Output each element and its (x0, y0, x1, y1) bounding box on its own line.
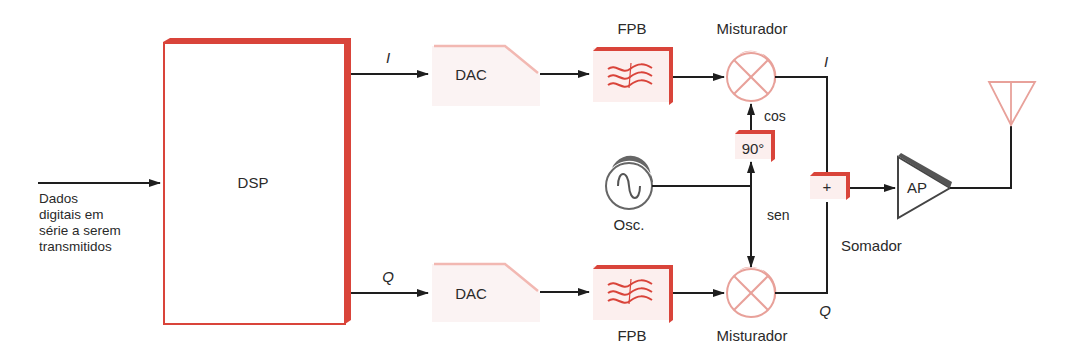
wire-mixer-top-summer (775, 77, 827, 172)
mixer-top-label: Misturador (717, 20, 788, 37)
antenna-icon (989, 82, 1035, 125)
fpb-bottom-label: FPB (617, 327, 646, 344)
dac-top-block[interactable]: DAC (432, 46, 540, 106)
phase-shift-block[interactable]: 90° (735, 130, 775, 162)
sen-label: sen (767, 207, 790, 223)
mixer-bottom-label: Misturador (717, 327, 788, 344)
oscillator-label: Osc. (614, 216, 645, 233)
i-label-right: I (824, 53, 828, 70)
fpb-top-block[interactable] (593, 47, 673, 105)
dac-bottom-block[interactable]: DAC (432, 264, 540, 322)
summer-block[interactable]: + (810, 172, 850, 200)
power-amplifier[interactable]: AP (898, 153, 952, 218)
mixer-top[interactable] (727, 51, 776, 101)
cos-label: cos (764, 108, 786, 124)
summer-plus: + (823, 178, 832, 195)
dac-top-label: DAC (455, 66, 487, 83)
summer-label: Somador (841, 237, 902, 254)
oscillator[interactable] (606, 156, 653, 209)
input-label: Dados digitais em série a serem transmit… (39, 191, 125, 254)
fpb-top-label: FPB (617, 20, 646, 37)
wire-amplifier-antenna (950, 126, 1011, 188)
q-label-left: Q (382, 268, 394, 285)
fpb-bottom-block[interactable] (593, 265, 673, 323)
q-label-right: Q (819, 302, 831, 319)
dsp-label: DSP (238, 174, 269, 191)
phase-shift-label: 90° (742, 140, 765, 157)
mixer-bottom[interactable] (727, 267, 776, 317)
amplifier-label: AP (907, 179, 927, 196)
dsp-block[interactable]: DSP (163, 38, 351, 324)
dac-bottom-label: DAC (455, 285, 487, 302)
i-label-left: I (386, 49, 390, 66)
